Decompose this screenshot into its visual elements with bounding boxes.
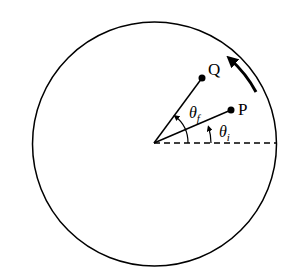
theta-f-arc-icon bbox=[175, 116, 188, 143]
theta-i-arc-icon bbox=[209, 127, 212, 143]
rotation-arrow-icon bbox=[230, 59, 256, 92]
rotation-diagram: P Q θi θf bbox=[0, 0, 300, 279]
disk-circle bbox=[33, 22, 277, 266]
point-p-dot bbox=[228, 107, 235, 114]
theta-i-label: θi bbox=[219, 123, 230, 143]
theta-f-label: θf bbox=[189, 104, 202, 124]
point-q-dot bbox=[199, 75, 206, 82]
point-p-label: P bbox=[238, 100, 247, 119]
point-q-label: Q bbox=[208, 60, 220, 79]
